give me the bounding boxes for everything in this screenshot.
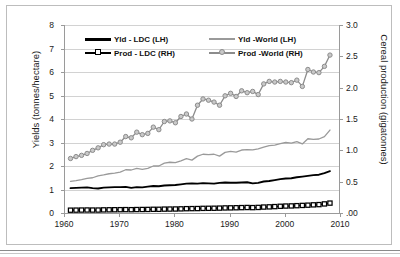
data-point-marker xyxy=(322,64,326,68)
data-point-marker xyxy=(273,205,277,209)
data-point-marker xyxy=(129,208,133,212)
data-point-marker xyxy=(140,207,144,211)
data-point-marker xyxy=(245,205,249,209)
data-point-marker xyxy=(295,78,299,82)
data-point-marker xyxy=(140,132,144,136)
x-tick-mark xyxy=(340,213,341,217)
data-point-marker xyxy=(162,207,166,211)
data-point-marker xyxy=(250,89,254,93)
data-point-marker xyxy=(179,114,183,118)
legend-swatch-icon xyxy=(85,33,111,45)
data-point-marker xyxy=(328,53,332,57)
data-point-marker xyxy=(278,204,282,208)
y-tick-label-left: 4 xyxy=(49,114,54,124)
y-tick-label-right: 1.5 xyxy=(346,114,358,124)
legend-label: Yld - LDC (LH) xyxy=(114,35,168,44)
data-point-marker xyxy=(306,67,310,71)
x-tick-label: 1990 xyxy=(220,219,239,229)
data-point-marker xyxy=(295,204,299,208)
data-point-marker xyxy=(284,204,288,208)
data-point-marker xyxy=(284,80,288,84)
data-point-marker xyxy=(184,112,188,116)
data-point-marker xyxy=(85,151,89,155)
data-point-marker xyxy=(190,207,194,211)
data-point-marker xyxy=(217,103,221,107)
data-point-marker xyxy=(129,136,133,140)
data-point-marker xyxy=(223,94,227,98)
data-point-marker xyxy=(107,208,111,212)
data-point-marker xyxy=(135,130,139,134)
data-point-marker xyxy=(228,91,232,95)
data-point-marker xyxy=(157,207,161,211)
x-axis-labels: 196019701980199020002010 xyxy=(64,217,340,233)
data-point-marker xyxy=(173,121,177,125)
y-tick-label-left: 3 xyxy=(49,138,54,148)
legend-swatch-icon xyxy=(209,33,235,45)
footer-rule-bottom xyxy=(0,253,400,254)
data-point-marker xyxy=(223,206,227,210)
data-point-marker xyxy=(201,206,205,210)
data-point-marker xyxy=(68,208,72,212)
data-point-marker xyxy=(229,206,233,210)
series-prod-ldc-rh xyxy=(68,201,332,212)
data-point-marker xyxy=(96,208,100,212)
chart-figure: Yields (tonnes/hectare) Cereal productio… xyxy=(0,0,400,257)
x-tick-label: 1960 xyxy=(55,219,74,229)
data-point-marker xyxy=(179,207,183,211)
y-tick-label-left: 2 xyxy=(49,161,54,171)
data-point-marker xyxy=(85,208,89,212)
legend-item[interactable]: Yld - LDC (LH) xyxy=(85,33,168,45)
data-point-marker xyxy=(267,205,271,209)
legend-label: Prod - LDC (RH) xyxy=(114,49,175,58)
data-point-marker xyxy=(256,205,260,209)
data-point-marker xyxy=(212,100,216,104)
data-point-marker xyxy=(113,208,117,212)
y-tick-label-left: 8 xyxy=(49,20,54,30)
x-tick-label: 1980 xyxy=(165,219,184,229)
y-tick-label-right: 3.0 xyxy=(346,20,358,30)
data-point-marker xyxy=(328,201,332,205)
data-point-marker xyxy=(311,203,315,207)
data-point-marker xyxy=(124,208,128,212)
data-point-marker xyxy=(79,153,83,157)
y-tick-label-right: 1.0 xyxy=(346,145,358,155)
data-point-marker xyxy=(91,208,95,212)
data-point-marker xyxy=(201,97,205,101)
y-tick-label-left: 7 xyxy=(49,44,54,54)
y-axis-right-ticks: .000.51.01.52.02.53.0 xyxy=(340,25,374,213)
data-point-marker xyxy=(118,140,122,144)
data-point-marker xyxy=(135,207,139,211)
data-point-marker xyxy=(146,207,150,211)
legend-item[interactable]: Prod - LDC (RH) xyxy=(85,47,175,59)
data-point-marker xyxy=(184,207,188,211)
y-axis-left-ticks: 012345678 xyxy=(27,25,60,213)
data-point-marker xyxy=(289,80,293,84)
y-tick-label-left: 0 xyxy=(49,208,54,218)
data-point-marker xyxy=(234,206,238,210)
data-point-marker xyxy=(195,103,199,107)
data-point-marker xyxy=(206,98,210,102)
data-point-marker xyxy=(289,204,293,208)
data-point-marker xyxy=(101,142,105,146)
data-point-marker xyxy=(240,206,244,210)
y-tick-label-left: 1 xyxy=(49,185,54,195)
data-point-marker xyxy=(151,125,155,129)
x-tick-label: 2010 xyxy=(331,219,350,229)
x-tick-label: 1970 xyxy=(110,219,129,229)
data-point-marker xyxy=(74,154,78,158)
data-point-marker xyxy=(300,84,304,88)
data-point-marker xyxy=(256,92,260,96)
series-line xyxy=(71,130,330,181)
data-point-marker xyxy=(239,89,243,93)
y-tick-label-right: 2.5 xyxy=(346,51,358,61)
legend-item[interactable]: Prod -World (RH) xyxy=(209,47,303,59)
data-point-marker xyxy=(322,202,326,206)
footer-rule-top xyxy=(0,250,400,251)
legend-item[interactable]: Yld -World (LH) xyxy=(209,33,296,45)
data-point-marker xyxy=(217,206,221,210)
y-tick-label-right: .00 xyxy=(346,208,358,218)
data-point-marker xyxy=(118,208,122,212)
data-point-marker xyxy=(262,205,266,209)
data-point-marker xyxy=(212,206,216,210)
data-point-marker xyxy=(68,156,72,160)
